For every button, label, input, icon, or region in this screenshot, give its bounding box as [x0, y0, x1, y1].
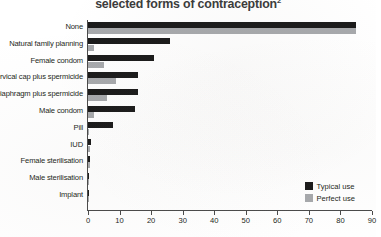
y-axis-category-label: Natural family planning: [9, 40, 83, 48]
chart-plot-area: NoneNatural family planningFemale condom…: [0, 18, 376, 237]
y-axis-category-label: Male sterilisation: [29, 174, 83, 182]
y-axis-category-label: Pill: [73, 124, 83, 132]
bar-perfect-use: [88, 129, 89, 135]
bar-typical-use: [88, 89, 138, 95]
bar-perfect-use: [88, 162, 90, 168]
bar-perfect-use: [88, 95, 107, 101]
bar-perfect-use: [88, 196, 89, 202]
x-axis-tick-label: 80: [328, 216, 352, 225]
y-axis-category-label: Male condom: [39, 107, 83, 115]
bar-group: [88, 139, 372, 152]
bar-typical-use: [88, 190, 89, 196]
bar-typical-use: [88, 22, 356, 28]
x-axis-tick-mark: [309, 211, 310, 215]
x-axis-tick-mark: [88, 211, 89, 215]
x-axis-tick-mark: [372, 211, 373, 215]
bar-typical-use: [88, 156, 90, 162]
x-axis-tick-label: 0: [76, 216, 100, 225]
title-footnote-marker: 2: [277, 0, 281, 5]
y-axis-category-label: Cervical cap plus spermicide: [0, 73, 83, 81]
x-axis-tick-mark: [246, 211, 247, 215]
x-axis-tick-label: 40: [202, 216, 226, 225]
x-axis-tick-label: 70: [297, 216, 321, 225]
x-axis-line: [87, 210, 372, 211]
x-axis-tick-label: 20: [139, 216, 163, 225]
y-axis-category-label: None: [65, 23, 83, 31]
bar-perfect-use: [88, 78, 116, 84]
bar-typical-use: [88, 122, 113, 128]
bar-perfect-use: [88, 146, 90, 152]
x-axis-tick-label: 90: [360, 216, 381, 225]
y-axis-category-label: Female condom: [31, 57, 84, 65]
x-axis-tick-label: 30: [171, 216, 195, 225]
y-axis-category-labels: NoneNatural family planningFemale condom…: [0, 18, 86, 205]
bar-group: [88, 106, 372, 119]
bar-typical-use: [88, 55, 154, 61]
y-axis-category-label: Diaphragm plus spermicide: [0, 90, 83, 98]
x-axis-tick-mark: [277, 211, 278, 215]
bar-group: [88, 55, 372, 68]
bar-group: [88, 38, 372, 51]
legend-label: Typical use: [317, 182, 355, 191]
page-title: selected forms of contraception2: [0, 0, 376, 11]
bar-group: [88, 89, 372, 102]
bar-typical-use: [88, 173, 89, 179]
bar-series-container: [88, 18, 372, 206]
y-axis-category-label: Implant: [59, 191, 83, 199]
y-axis-category-label: IUD: [70, 141, 83, 149]
bar-perfect-use: [88, 45, 94, 51]
bar-perfect-use: [88, 28, 356, 34]
x-axis-tick-mark: [151, 211, 152, 215]
bar-typical-use: [88, 106, 135, 112]
bar-group: [88, 156, 372, 169]
bar-perfect-use: [88, 179, 89, 185]
x-axis-tick-mark: [120, 211, 121, 215]
bar-perfect-use: [88, 112, 94, 118]
bar-group: [88, 72, 372, 85]
legend-item: Perfect use: [305, 193, 375, 203]
x-axis-tick-label: 10: [108, 216, 132, 225]
x-axis-tick-mark: [214, 211, 215, 215]
y-axis-category-label: Female sterilisation: [21, 157, 83, 165]
legend-color-swatch: [305, 182, 313, 190]
x-axis-tick-label: 50: [234, 216, 258, 225]
bar-group: [88, 22, 372, 35]
legend-label: Perfect use: [317, 194, 355, 203]
bar-typical-use: [88, 72, 138, 78]
bar-perfect-use: [88, 62, 104, 68]
bar-typical-use: [88, 38, 170, 44]
bar-group: [88, 122, 372, 135]
x-axis-tick-mark: [183, 211, 184, 215]
x-axis-tick-label: 60: [265, 216, 289, 225]
legend-color-swatch: [305, 194, 313, 202]
x-axis-tick-mark: [340, 211, 341, 215]
legend-item: Typical use: [305, 181, 375, 191]
bar-typical-use: [88, 139, 91, 145]
chart-legend: Typical usePerfect use: [305, 181, 375, 205]
